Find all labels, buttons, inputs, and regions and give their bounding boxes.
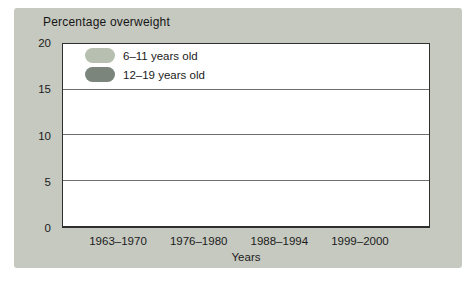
x-tick-label: 1999–2000 <box>329 235 391 247</box>
legend: 6–11 years old12–19 years old <box>85 48 205 86</box>
legend-label: 12–19 years old <box>123 69 205 81</box>
x-tick-label: 1976–1980 <box>168 235 230 247</box>
y-tick-label: 10 <box>38 129 51 143</box>
y-tick-label: 0 <box>45 221 51 235</box>
x-axis-labels: 1963–19701976–19801988–19941999–2000 <box>62 235 430 247</box>
figure-canvas: Percentage overweight 05101520 6–11 year… <box>0 0 476 282</box>
x-tick-label: 1988–1994 <box>248 235 310 247</box>
y-tick-label: 5 <box>45 175 51 189</box>
legend-item: 6–11 years old <box>85 48 205 63</box>
chart-title: Percentage overweight <box>43 15 170 29</box>
y-axis: 05101520 <box>14 43 57 228</box>
y-tick-label: 15 <box>38 82 51 96</box>
legend-swatch <box>85 48 115 63</box>
x-axis-title: Years <box>62 251 430 263</box>
legend-item: 12–19 years old <box>85 67 205 82</box>
y-tick-label: 20 <box>38 36 51 50</box>
legend-swatch <box>85 67 115 82</box>
x-tick-label: 1963–1970 <box>87 235 149 247</box>
legend-label: 6–11 years old <box>123 50 198 62</box>
chart-panel: Percentage overweight 05101520 6–11 year… <box>14 8 462 268</box>
plot-area: 6–11 years old12–19 years old <box>62 43 430 228</box>
